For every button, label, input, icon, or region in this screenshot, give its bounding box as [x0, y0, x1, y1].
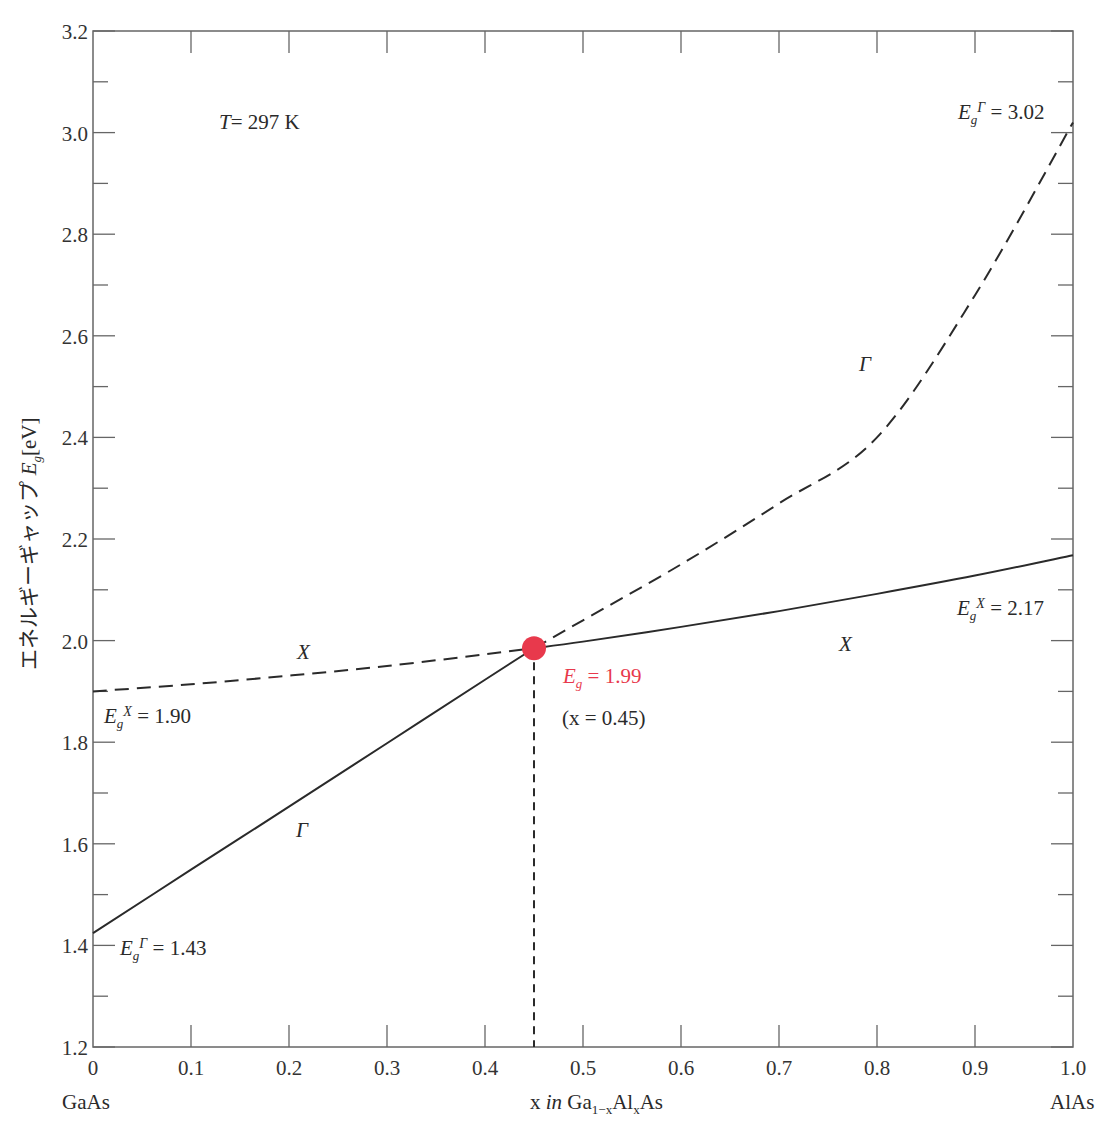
eg-crossover-value: = 1.99 [588, 664, 642, 688]
x-tick-label: 0.5 [570, 1056, 596, 1080]
x-band-label-right: X [839, 632, 852, 657]
temperature-symbol: T [219, 110, 231, 134]
y-tick-label: 2.2 [62, 528, 88, 552]
gamma-superscript: Γ [139, 936, 147, 951]
x-band-symbol: X [297, 640, 310, 664]
y-tick-label: 3.2 [62, 20, 88, 44]
eg-symbol: E [958, 100, 971, 124]
x-axis-ticks: 00.10.20.30.40.50.60.70.80.91.0 [88, 31, 1086, 1080]
x-tick-label: 0.7 [766, 1056, 792, 1080]
y-axis-label-symbol: E [17, 462, 41, 475]
eg-symbol: E [957, 596, 970, 620]
gamma-band-label-right: Γ [859, 352, 871, 377]
y-tick-label: 1.2 [62, 1036, 88, 1060]
gamma-band-symbol: Γ [859, 352, 871, 376]
x-axis-label: x in Ga1−xAlxAs [530, 1090, 663, 1118]
x-tick-label: 0.9 [962, 1056, 988, 1080]
chart-canvas: 1.21.41.61.82.02.22.42.62.83.03.2 00.10.… [0, 0, 1105, 1137]
x-tick-label: 0.3 [374, 1056, 400, 1080]
y-axis-ticks: 1.21.41.61.82.02.22.42.62.83.03.2 [62, 20, 1073, 1060]
eg-symbol: E [563, 664, 576, 688]
x-tick-label: 0.1 [178, 1056, 204, 1080]
crossover-point-marker [522, 636, 546, 660]
x-tick-label: 0.6 [668, 1056, 694, 1080]
x-tick-label: 0 [88, 1056, 99, 1080]
plot-frame [93, 31, 1073, 1047]
x-axis-left-material: GaAs [62, 1090, 110, 1115]
y-axis-label-subscript: g [29, 456, 44, 463]
x-indirect-dashed-line [93, 648, 534, 691]
x-band-symbol: X [839, 632, 852, 656]
gamma-direct-dashed-line [534, 122, 1073, 648]
x-superscript: X [976, 596, 985, 611]
x-axis-label-as: As [640, 1090, 663, 1114]
x-axis-label-sub1: 1−x [592, 1102, 612, 1117]
x-band-label-left: X [297, 640, 310, 665]
eg-gamma-gaas-value: = 1.43 [153, 936, 207, 960]
eg-x-gaas-value: = 1.90 [137, 704, 191, 728]
y-tick-label: 1.6 [62, 833, 88, 857]
y-tick-label: 2.8 [62, 223, 88, 247]
y-tick-label: 2.0 [62, 630, 88, 654]
eg-gamma-gaas-annotation: EgΓ = 1.43 [120, 936, 206, 964]
y-tick-label: 1.4 [62, 934, 89, 958]
y-tick-label: 2.6 [62, 325, 88, 349]
temperature-annotation: T= 297 K [219, 110, 300, 135]
eg-symbol: E [104, 704, 117, 728]
crossover-x-annotation: (x = 0.45) [562, 706, 646, 731]
x-axis-label-ga: Ga [562, 1090, 592, 1114]
eg-gamma-alas-value: = 3.02 [991, 100, 1045, 124]
eg-x-alas-annotation: EgX = 2.17 [957, 596, 1044, 624]
x-axis-label-al: Al [612, 1090, 633, 1114]
x-axis-label-x: x [530, 1090, 546, 1114]
gamma-band-symbol: Γ [296, 818, 308, 842]
eg-x-alas-value: = 2.17 [990, 596, 1044, 620]
x-axis-label-in: in [546, 1090, 562, 1114]
y-tick-label: 2.4 [62, 426, 89, 450]
y-axis-label: エネルギーギャップ Eg[eV] [12, 354, 45, 734]
eg-crossover-annotation: Eg = 1.99 [563, 664, 641, 692]
y-axis-label-jp: エネルギーギャップ [17, 475, 41, 669]
gamma-band-label-left: Γ [296, 818, 308, 843]
x-tick-label: 1.0 [1060, 1056, 1086, 1080]
gamma-direct-solid-line [93, 648, 534, 933]
x-superscript: X [123, 704, 132, 719]
eg-subscript: g [576, 676, 583, 691]
eg-symbol: E [120, 936, 133, 960]
x-tick-label: 0.4 [472, 1056, 499, 1080]
x-tick-label: 0.8 [864, 1056, 890, 1080]
y-tick-label: 3.0 [62, 122, 88, 146]
x-tick-label: 0.2 [276, 1056, 302, 1080]
gamma-superscript: Γ [977, 100, 985, 115]
temperature-value: = 297 K [231, 110, 300, 134]
eg-x-gaas-annotation: EgX = 1.90 [104, 704, 191, 732]
y-axis-label-unit: [eV] [17, 417, 41, 455]
eg-gamma-alas-annotation: EgΓ = 3.02 [958, 100, 1044, 128]
x-axis-right-material: AlAs [1050, 1090, 1094, 1115]
y-tick-label: 1.8 [62, 731, 88, 755]
